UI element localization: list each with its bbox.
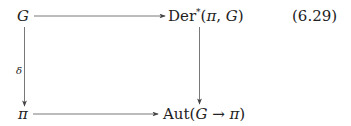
der-sep: ,	[216, 7, 226, 25]
der-close: )	[238, 7, 244, 25]
node-G: G	[17, 7, 29, 25]
node-der-star: Der*(π, G)	[168, 7, 244, 25]
aut-arg-pi: π	[229, 105, 239, 123]
aut-arg-G: G	[195, 105, 207, 123]
label-delta: δ	[16, 65, 22, 76]
aut-prefix: Aut	[163, 105, 190, 123]
der-prefix: Der	[168, 7, 196, 25]
equation-number: (6.29)	[292, 7, 337, 25]
aut-close: )	[239, 105, 245, 123]
node-aut: Aut(G → π)	[163, 105, 245, 123]
aut-arrow: →	[207, 105, 229, 123]
node-pi: π	[18, 105, 28, 123]
der-arg-pi: π	[206, 7, 216, 25]
der-arg-G: G	[226, 7, 238, 25]
